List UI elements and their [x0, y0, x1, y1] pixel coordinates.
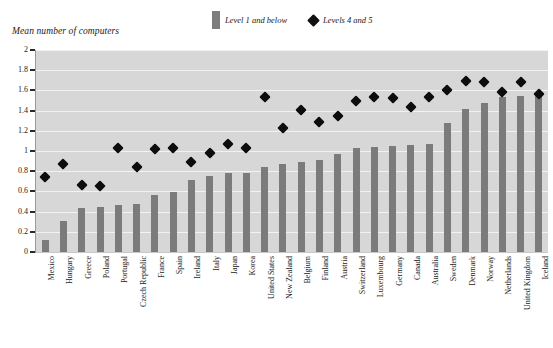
y-axis-tick-mark — [30, 211, 35, 213]
x-axis-category-label: Australia — [432, 256, 440, 285]
gridline — [36, 191, 548, 192]
x-axis-category-label: France — [158, 256, 166, 278]
y-axis-tick-label: 0.4 — [6, 208, 28, 216]
legend-item-level1-and-below: Level 1 and below — [212, 11, 287, 29]
legend-label-levels4-and-5: Levels 4 and 5 — [323, 15, 372, 25]
y-axis-tick-mark — [30, 130, 35, 132]
diamond-marker — [295, 104, 306, 115]
bar-swatch-icon — [212, 11, 220, 29]
bar — [115, 205, 122, 252]
x-axis-category-label: Korea — [249, 256, 257, 276]
y-axis-tick-mark — [30, 110, 35, 112]
gridline — [36, 171, 548, 172]
gridline — [36, 232, 548, 233]
x-axis-category-label: Greece — [85, 256, 93, 279]
diamond-marker — [222, 138, 233, 149]
diamond-marker — [350, 96, 361, 107]
gridline — [36, 50, 548, 51]
diamond-marker — [497, 87, 508, 98]
gridline — [36, 70, 548, 71]
legend-label-level1-and-below: Level 1 and below — [225, 15, 287, 25]
diamond-marker — [76, 180, 87, 191]
diamond-marker — [204, 147, 215, 158]
x-axis-category-label: Switzerland — [359, 256, 367, 294]
y-axis-title: Mean number of computers — [12, 26, 119, 36]
bar — [151, 195, 158, 252]
chart-legend: Level 1 and below Levels 4 and 5 — [212, 9, 394, 31]
diamond-marker — [186, 156, 197, 167]
y-axis-tick-mark — [30, 231, 35, 233]
y-axis-tick-mark — [30, 190, 35, 192]
bar — [517, 96, 524, 252]
legend-item-levels4-and-5: Levels 4 and 5 — [309, 15, 372, 25]
y-axis-tick-mark — [30, 69, 35, 71]
gridline — [36, 212, 548, 213]
y-axis-tick-mark — [30, 150, 35, 152]
x-axis-category-label: Denmark — [469, 256, 477, 286]
bar — [353, 148, 360, 252]
y-axis-tick-label: 1.8 — [6, 66, 28, 74]
chart-container: Mean number of computers Level 1 and bel… — [0, 0, 553, 348]
diamond-marker — [423, 92, 434, 103]
bar — [42, 240, 49, 252]
diamond-marker — [387, 93, 398, 104]
x-axis-category-label: Iceland — [542, 256, 550, 280]
y-axis-tick-label: 2 — [6, 46, 28, 54]
y-axis-tick-label: 1.6 — [6, 86, 28, 94]
bar — [316, 160, 323, 252]
x-axis-category-label: Italy — [213, 256, 221, 271]
gridline — [36, 111, 548, 112]
bar — [535, 95, 542, 252]
x-axis-category-label: Sweden — [450, 256, 458, 281]
y-axis-tick-mark — [30, 251, 35, 253]
bar — [261, 167, 268, 252]
y-axis-tick-mark — [30, 89, 35, 91]
x-axis-category-label: New Zealand — [286, 256, 294, 299]
x-axis-category-label: Norway — [487, 256, 495, 282]
bar — [243, 173, 250, 252]
y-axis-tick-label: 0.6 — [6, 187, 28, 195]
x-axis-category-label: Luxembourg — [377, 256, 385, 297]
gridline — [36, 131, 548, 132]
bar — [499, 97, 506, 252]
y-axis-tick-label: 1.2 — [6, 127, 28, 135]
gridline — [36, 252, 548, 253]
x-axis-category-label: Netherlands — [505, 256, 513, 295]
y-axis-tick-label: 1 — [6, 147, 28, 155]
y-axis-tick-label: 0.2 — [6, 228, 28, 236]
y-axis-tick-label: 1.4 — [6, 107, 28, 115]
x-axis-category-label: Belgium — [304, 256, 312, 284]
bar — [407, 145, 414, 252]
bar — [97, 207, 104, 252]
y-axis-tick-mark — [30, 170, 35, 172]
x-axis-category-label: Czech Republic — [140, 256, 148, 307]
y-axis-tick-label: 0.8 — [6, 167, 28, 175]
gridline — [36, 151, 548, 152]
bar — [298, 162, 305, 252]
x-axis-category-label: Portugal — [121, 256, 129, 283]
diamond-marker — [259, 92, 270, 103]
diamond-marker — [149, 143, 160, 154]
bar — [133, 204, 140, 252]
bar — [170, 192, 177, 252]
diamond-marker — [39, 172, 50, 183]
y-axis-tick-label: 0 — [6, 248, 28, 256]
diamond-marker — [58, 158, 69, 169]
x-axis-category-label: Finland — [322, 256, 330, 280]
y-axis-tick-mark — [30, 49, 35, 51]
bar — [371, 147, 378, 252]
bar — [60, 221, 67, 252]
bar — [279, 164, 286, 252]
diamond-marker — [460, 76, 471, 87]
x-axis-category-label: Austria — [341, 256, 349, 280]
diamond-swatch-icon — [307, 14, 320, 27]
diamond-marker — [314, 116, 325, 127]
bar — [444, 123, 451, 252]
x-axis-category-label: Ireland — [194, 256, 202, 279]
bar — [206, 176, 213, 252]
gridline — [36, 90, 548, 91]
x-axis-category-label: Spain — [176, 256, 184, 274]
diamond-marker — [478, 77, 489, 88]
bar — [481, 103, 488, 252]
x-axis-category-label: United Kingdom — [524, 256, 532, 310]
